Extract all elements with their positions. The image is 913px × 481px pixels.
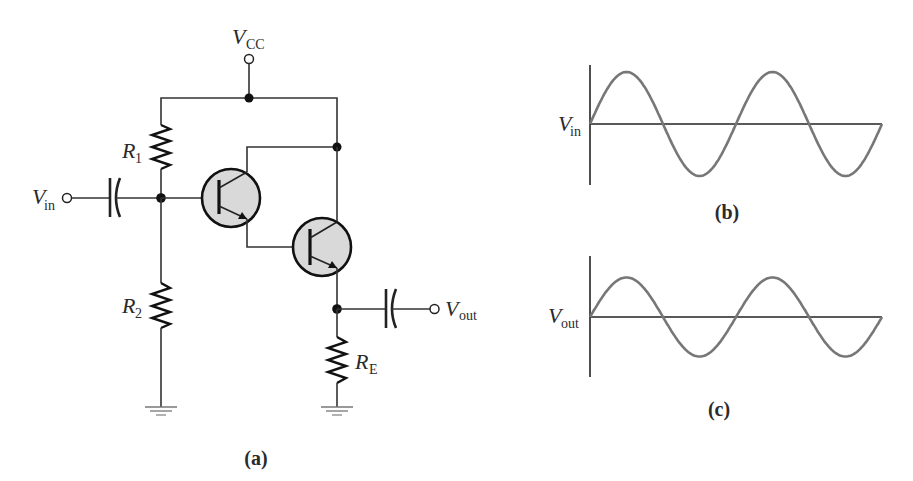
vout-terminal-label-sub: out	[459, 308, 477, 323]
caption-b: (b)	[715, 201, 739, 224]
transistor-q1	[202, 169, 260, 227]
transistor-q2	[293, 218, 351, 276]
circuit-diagram: V CC R 1 V in R 2	[32, 24, 477, 470]
resistor-r1	[152, 125, 170, 169]
r2-label-main: R	[121, 293, 136, 318]
re-label-main: R	[354, 349, 369, 374]
vcc-label-sub: CC	[246, 37, 265, 52]
ground-icon	[321, 407, 353, 415]
vin-terminal	[63, 194, 72, 203]
r2-label-sub: 2	[135, 306, 142, 321]
vin-terminal-label-sub: in	[44, 198, 55, 213]
caption-a: (a)	[244, 447, 267, 470]
vin-label-sub: in	[570, 124, 581, 139]
q1-collector-wire	[247, 147, 337, 172]
vout-terminal	[430, 305, 439, 314]
vcc-terminal	[245, 55, 254, 64]
resistor-re	[328, 337, 346, 383]
junction-dot-vcc	[245, 94, 254, 103]
re-label-sub: E	[369, 362, 378, 377]
vin-waveform-plot: V in (b)	[558, 65, 882, 224]
caption-c: (c)	[708, 398, 730, 421]
ground-icon	[145, 407, 177, 415]
vout-label-sub: out	[561, 316, 579, 331]
top-rail-wire	[161, 98, 337, 147]
r1-label-main: R	[121, 138, 136, 163]
vout-waveform-plot: V out (c)	[548, 256, 882, 421]
r1-label-sub: 1	[135, 151, 142, 166]
figure-canvas: V CC R 1 V in R 2	[0, 0, 913, 481]
resistor-r2	[152, 283, 170, 328]
